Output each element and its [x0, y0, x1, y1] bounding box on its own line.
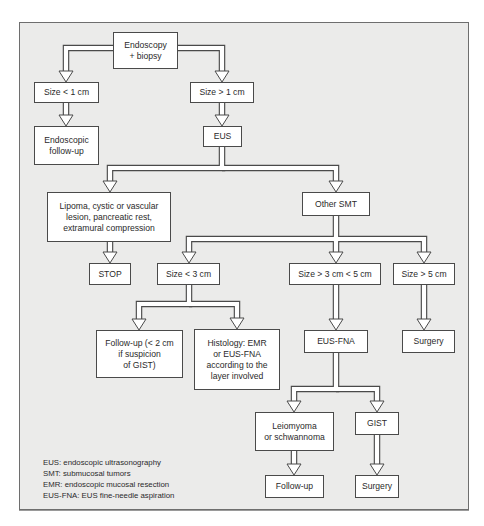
- node-lipoma: Lipoma, cystic or vascular lesion, pancr…: [47, 192, 171, 242]
- node-endoscopic-follow-up: Endoscopic follow-up: [34, 126, 99, 165]
- legend-item-eus-fna: EUS-FNA: EUS fine-needle aspiration: [43, 490, 174, 501]
- node-leiomyoma: Leiomyoma or schwannoma: [255, 412, 334, 451]
- node-size-gt-1: Size > 1 cm: [190, 82, 254, 103]
- legend-item-smt: SMT: submucosal tumors: [43, 468, 174, 479]
- node-histology: Histology: EMR or EUS-FNA according to t…: [194, 329, 280, 390]
- legend-item-eus: EUS: endoscopic ultrasonography: [43, 457, 174, 468]
- legend-item-emr: EMR: endoscopic mucosal resection: [43, 479, 174, 490]
- node-size-gt-5: Size > 5 cm: [393, 263, 455, 285]
- node-eus-fna: EUS-FNA: [304, 330, 368, 353]
- node-gist: GIST: [355, 412, 399, 435]
- node-eus: EUS: [203, 126, 242, 147]
- node-follow-up: Follow-up: [265, 475, 324, 498]
- abbreviation-legend: EUS: endoscopic ultrasonography SMT: sub…: [43, 457, 174, 501]
- node-endoscopy: Endoscopy + biopsy: [113, 32, 178, 69]
- node-size-3-5: Size > 3 cm < 5 cm: [289, 263, 381, 285]
- node-surgery-2: Surgery: [355, 475, 399, 498]
- node-surgery-1: Surgery: [402, 330, 455, 353]
- node-size-lt-1: Size < 1 cm: [34, 82, 99, 103]
- node-other-smt: Other SMT: [302, 192, 370, 216]
- node-size-lt-3: Size < 3 cm: [157, 263, 220, 285]
- node-stop: STOP: [89, 263, 131, 285]
- node-follow-up-2cm: Follow-up (< 2 cm if suspicion of GIST): [96, 330, 183, 378]
